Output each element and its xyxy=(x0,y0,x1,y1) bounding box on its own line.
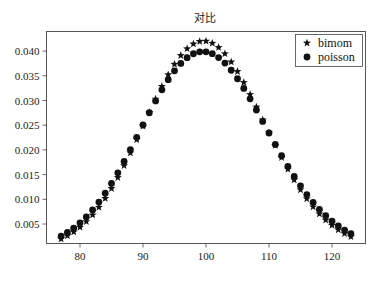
point-bimom xyxy=(177,51,185,59)
point-poisson xyxy=(322,212,329,219)
point-poisson xyxy=(184,54,191,61)
point-poisson xyxy=(133,134,140,141)
point-poisson xyxy=(108,180,115,187)
point-bimom xyxy=(221,50,229,58)
point-poisson xyxy=(121,158,128,165)
point-poisson xyxy=(64,229,71,236)
point-bimom xyxy=(171,60,179,68)
point-poisson xyxy=(190,50,197,57)
point-bimom xyxy=(196,37,204,45)
data-points xyxy=(57,37,355,242)
point-poisson xyxy=(102,190,109,197)
y-tick-label: 0.035 xyxy=(15,70,40,82)
legend-label: poisson xyxy=(318,50,355,64)
point-poisson xyxy=(253,107,260,114)
point-poisson xyxy=(310,199,317,206)
point-poisson xyxy=(247,95,254,102)
point-poisson xyxy=(196,48,203,55)
point-poisson xyxy=(297,182,304,189)
point-poisson xyxy=(159,86,166,93)
chart: 对比 8090100110120 0.0050.0100.0150.0200.0… xyxy=(0,0,378,282)
point-bimom xyxy=(183,44,191,52)
y-tick-label: 0.040 xyxy=(15,45,40,57)
point-bimom xyxy=(234,67,242,75)
y-tick-label: 0.005 xyxy=(15,218,40,230)
point-poisson xyxy=(348,230,355,237)
point-poisson xyxy=(114,169,121,176)
point-poisson xyxy=(341,227,348,234)
point-bimom xyxy=(215,43,223,51)
y-tick-label: 0.015 xyxy=(15,169,40,181)
series-poisson xyxy=(58,48,355,239)
point-poisson xyxy=(177,60,184,67)
point-poisson xyxy=(70,225,77,232)
point-poisson xyxy=(272,141,279,148)
point-poisson xyxy=(329,218,336,225)
point-poisson xyxy=(203,48,210,55)
point-poisson xyxy=(127,146,134,153)
point-bimom xyxy=(227,58,235,66)
x-axis: 8090100110120 xyxy=(75,244,341,262)
legend-label: bimom xyxy=(318,36,353,50)
point-poisson xyxy=(209,50,216,57)
point-poisson xyxy=(285,163,292,170)
x-tick-label: 110 xyxy=(261,250,278,262)
point-poisson xyxy=(259,118,266,125)
y-tick-label: 0.025 xyxy=(15,119,40,131)
point-poisson xyxy=(146,109,153,116)
series-bimom xyxy=(57,37,355,242)
chart-title: 对比 xyxy=(194,11,216,25)
x-tick-label: 120 xyxy=(324,250,341,262)
x-tick-label: 80 xyxy=(75,250,87,262)
point-bimom xyxy=(240,78,248,86)
point-poisson xyxy=(240,85,247,92)
point-poisson xyxy=(58,233,65,240)
point-poisson xyxy=(266,130,273,137)
point-poisson xyxy=(228,67,235,74)
point-poisson xyxy=(152,98,159,105)
point-poisson xyxy=(222,60,229,67)
x-tick-label: 100 xyxy=(198,250,215,262)
point-bimom xyxy=(189,40,197,48)
point-bimom xyxy=(202,37,210,45)
y-tick-label: 0.020 xyxy=(15,144,40,156)
point-poisson xyxy=(171,67,178,74)
x-tick-label: 90 xyxy=(138,250,150,262)
point-poisson xyxy=(83,214,90,221)
point-poisson xyxy=(291,173,298,180)
legend: bimompoisson xyxy=(296,35,363,67)
point-poisson xyxy=(303,191,310,198)
point-poisson xyxy=(77,220,84,227)
circle-marker-icon xyxy=(304,54,311,61)
point-poisson xyxy=(96,199,103,206)
y-tick-label: 0.030 xyxy=(15,95,40,107)
point-poisson xyxy=(140,122,147,129)
point-poisson xyxy=(335,223,342,230)
y-tick-label: 0.010 xyxy=(15,193,40,205)
point-poisson xyxy=(215,54,222,61)
point-poisson xyxy=(316,206,323,213)
point-poisson xyxy=(165,76,172,83)
point-poisson xyxy=(278,152,285,159)
point-poisson xyxy=(234,75,241,82)
y-axis: 0.0050.0100.0150.0200.0250.0300.0350.040 xyxy=(15,45,47,230)
point-poisson xyxy=(89,207,96,214)
